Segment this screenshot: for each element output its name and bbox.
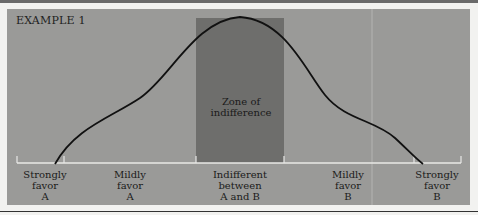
label-line: Strongly xyxy=(20,169,70,180)
zone-label-line-1: Zone of xyxy=(196,96,286,107)
page-bottom-rule xyxy=(0,211,478,212)
zone-of-indifference-label: Zone of indifference xyxy=(196,96,286,118)
label-line: Strongly xyxy=(412,169,462,180)
axis-label-mildly-favor-a: Mildly favor A xyxy=(105,169,155,202)
label-line: A and B xyxy=(205,191,275,202)
label-line: between xyxy=(205,180,275,191)
label-line: favor xyxy=(323,180,373,191)
label-line: favor xyxy=(412,180,462,191)
label-line: Mildly xyxy=(105,169,155,180)
axis-label-mildly-favor-b: Mildly favor B xyxy=(323,169,373,202)
axis-label-strongly-favor-b: Strongly favor B xyxy=(412,169,462,202)
label-line: favor xyxy=(105,180,155,191)
figure-title: EXAMPLE 1 xyxy=(16,14,86,27)
label-line: Mildly xyxy=(323,169,373,180)
label-line: Indifferent xyxy=(205,169,275,180)
axis-label-strongly-favor-a: Strongly favor A xyxy=(20,169,70,202)
label-line: A xyxy=(105,191,155,202)
zone-of-indifference-band xyxy=(196,18,284,163)
label-line: B xyxy=(323,191,373,202)
zone-label-line-2: indifference xyxy=(196,107,286,118)
label-line: B xyxy=(412,191,462,202)
label-line: favor xyxy=(20,180,70,191)
label-line: A xyxy=(20,191,70,202)
axis-label-indifferent: Indifferent between A and B xyxy=(205,169,275,202)
